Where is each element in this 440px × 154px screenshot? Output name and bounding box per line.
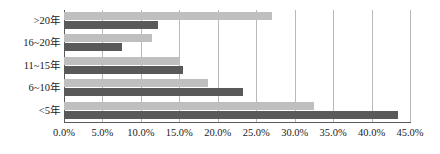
category-label: >20年 — [0, 15, 60, 27]
x-axis-line — [64, 122, 411, 123]
bar-series-2 — [64, 88, 243, 96]
category-axis: >20年 16~20年 11~15年 6~10年 <5年 — [0, 10, 60, 122]
x-tick-label: 20.0% — [204, 126, 231, 140]
plot-area — [64, 10, 410, 122]
bar-group — [64, 10, 410, 32]
x-tick-label: 0.0% — [53, 126, 75, 140]
bar-group — [64, 100, 410, 122]
gridline-45 — [410, 10, 411, 122]
bar-series-1 — [64, 57, 180, 65]
bar-series-1 — [64, 102, 314, 110]
bar-series-2 — [64, 111, 398, 119]
bar-group — [64, 32, 410, 54]
x-tick-label: 35.0% — [320, 126, 347, 140]
bar-series-2 — [64, 66, 183, 74]
x-tick-label: 40.0% — [358, 126, 385, 140]
x-tick-label: 25.0% — [243, 126, 270, 140]
category-label: <5年 — [0, 105, 60, 117]
category-label: 11~15年 — [0, 60, 60, 72]
bar-chart: >20年 16~20年 11~15年 6~10年 <5年 — [0, 0, 440, 154]
x-tick-label: 10.0% — [127, 126, 154, 140]
x-tick-label: 30.0% — [281, 126, 308, 140]
bar-group — [64, 55, 410, 77]
bar-series-1 — [64, 79, 208, 87]
x-tick-label: 5.0% — [91, 126, 113, 140]
category-label: 6~10年 — [0, 82, 60, 94]
x-axis: 0.0% 5.0% 10.0% 15.0% 20.0% 25.0% 30.0% … — [0, 126, 440, 144]
bar-series-1 — [64, 12, 272, 20]
bar-series-2 — [64, 21, 158, 29]
x-tick-label: 45.0% — [396, 126, 423, 140]
x-tick-label: 15.0% — [166, 126, 193, 140]
bar-series-1 — [64, 34, 152, 42]
bar-group — [64, 77, 410, 99]
category-label: 16~20年 — [0, 37, 60, 49]
bar-series-2 — [64, 43, 122, 51]
